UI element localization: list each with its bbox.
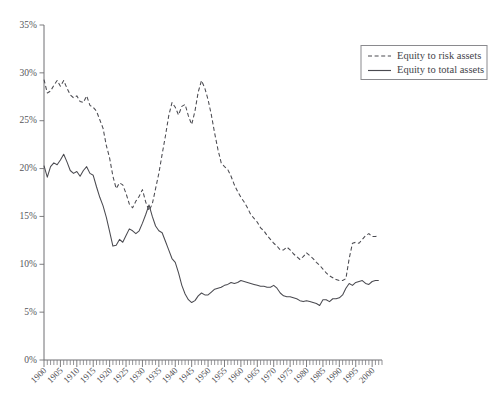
series-layer	[44, 80, 379, 306]
chart-container: 0%5%10%15%20%25%30%35% 19001905191019151…	[0, 0, 492, 411]
x-axis-tick-label: 1980	[291, 365, 311, 385]
y-axis-tick-label: 10%	[20, 259, 38, 269]
chart-legend: Equity to risk assetsEquity to total ass…	[361, 46, 487, 80]
series-line-solid	[44, 154, 379, 305]
x-axis-tick-label: 1985	[308, 365, 328, 385]
x-axis-tick-label: 1925	[111, 365, 131, 385]
x-axis-tick-label: 1965	[242, 365, 262, 385]
line-chart: 0%5%10%15%20%25%30%35% 19001905191019151…	[0, 0, 492, 411]
x-axis-tick-label: 1955	[209, 365, 229, 385]
x-axis-tick-label: 1910	[61, 365, 81, 385]
x-axis-tick-label: 1905	[45, 365, 65, 385]
x-axis-tick-label: 1920	[94, 365, 114, 385]
x-axis-tick-label: 1930	[127, 365, 147, 385]
x-axis-tick-label: 1990	[324, 365, 344, 385]
y-axis-tick-label: 0%	[24, 355, 37, 365]
y-axis-tick-label: 5%	[24, 307, 37, 317]
y-axis-tick-label: 30%	[20, 68, 38, 78]
x-axis-tick-label: 1995	[340, 365, 360, 385]
y-axis-tick-label: 20%	[20, 163, 38, 173]
y-axis: 0%5%10%15%20%25%30%35%	[20, 20, 44, 365]
x-axis-tick-label: 1960	[226, 365, 246, 385]
legend-label-0: Equity to risk assets	[397, 50, 481, 61]
x-axis-tick-label: 1940	[160, 365, 180, 385]
y-axis-tick-label: 15%	[20, 211, 38, 221]
x-axis-tick-label: 1970	[258, 365, 278, 385]
x-axis: 1900190519101915192019251930193519401945…	[29, 360, 382, 385]
x-axis-tick-label: 1915	[78, 365, 98, 385]
y-axis-tick-label: 35%	[20, 20, 38, 30]
x-axis-tick-label: 1900	[29, 365, 49, 385]
x-axis-tick-label: 1935	[143, 365, 163, 385]
x-axis-tick-label: 1950	[193, 365, 213, 385]
x-axis-tick-label: 1945	[176, 365, 196, 385]
x-axis-tick-label: 2000	[357, 365, 377, 385]
legend-label-1: Equity to total assets	[397, 64, 484, 75]
x-axis-tick-label: 1975	[275, 365, 295, 385]
y-axis-tick-label: 25%	[20, 115, 38, 125]
